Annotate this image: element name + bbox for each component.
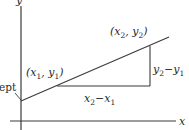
intercept-label: ept — [0, 81, 17, 93]
rise-label: y2−y1 — [152, 63, 184, 78]
point1-label: (x1, y1) — [26, 66, 64, 81]
run-label: x2−x1 — [84, 92, 115, 107]
point2-label: (x2, y2) — [110, 25, 148, 40]
y-axis-label: y — [15, 0, 23, 7]
x-axis-label: x — [179, 115, 186, 128]
intercept-leader — [15, 93, 21, 100]
slope-diagram: y x ept (x1, y1) (x2, y2) y2−y1 x2−x1 — [0, 0, 189, 130]
